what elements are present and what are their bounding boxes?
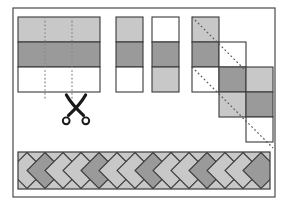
- offset-strip-1-cell-1: [192, 42, 219, 67]
- cut-strip-a: [116, 17, 143, 92]
- offset-strip-2-cell-2: [219, 92, 246, 117]
- quilt-diagram: [0, 0, 287, 206]
- offset-strip-2: [219, 42, 246, 117]
- cut-strip-a-cell-0: [116, 17, 143, 42]
- cut-strip-a-cell-1: [116, 42, 143, 67]
- diamond-border-panel: [9, 152, 279, 189]
- cut-strip-b-cell-2: [152, 67, 179, 92]
- offset-strip-3: [246, 67, 273, 142]
- diamond-band-clip: [9, 152, 279, 189]
- offset-strip-3-cell-1: [246, 92, 273, 117]
- offset-strip-3-cell-2: [246, 117, 273, 142]
- cut-strip-a-cell-2: [116, 67, 143, 92]
- cut-strip-b-cell-0: [152, 17, 179, 42]
- cut-strip-b: [152, 17, 179, 92]
- band-top: [18, 17, 100, 42]
- cut-strip-b-cell-1: [152, 42, 179, 67]
- strip-set-panel: [18, 17, 100, 92]
- band-bottom: [18, 67, 100, 92]
- offset-strip-2-cell-0: [219, 42, 246, 67]
- offset-strip-3-cell-0: [246, 67, 273, 92]
- band-middle: [18, 42, 100, 67]
- offset-strip-2-cell-1: [219, 67, 246, 92]
- offset-strip-1: [192, 17, 219, 92]
- figure-canvas: [0, 0, 287, 206]
